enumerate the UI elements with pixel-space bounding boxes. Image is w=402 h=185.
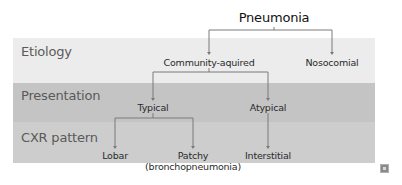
node-community-aquired: Community-aquired — [164, 57, 255, 68]
node-lobar: Lobar — [102, 150, 128, 161]
node-nosocomial: Nosocomial — [305, 57, 358, 68]
node-pneumonia: Pneumonia — [239, 10, 310, 25]
node-typical: Typical — [138, 102, 169, 113]
node-patchy-sublabel: (bronchopneumonia) — [145, 161, 241, 172]
node-patchy-label: Patchy — [145, 150, 241, 161]
node-patchy: Patchy (bronchopneumonia) — [145, 150, 241, 172]
node-interstitial: Interstitial — [245, 150, 291, 161]
node-atypical: Atypical — [250, 102, 286, 113]
expand-icon[interactable] — [380, 164, 389, 173]
